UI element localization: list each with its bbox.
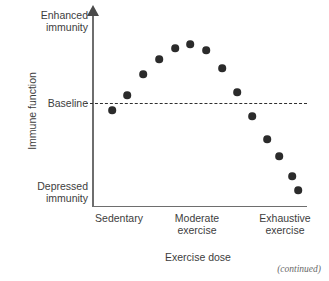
data-point: [294, 186, 302, 194]
data-point: [123, 91, 131, 99]
data-point: [171, 44, 179, 52]
x-tick-label-exhaustive-exercise: Exhaustive exercise: [248, 212, 322, 236]
data-point: [108, 106, 116, 114]
data-point: [139, 70, 147, 78]
data-point: [288, 172, 296, 180]
data-point: [186, 40, 194, 48]
y-tick-label-baseline: Baseline: [48, 97, 88, 109]
data-point: [248, 112, 256, 120]
data-point: [263, 135, 271, 143]
y-tick-label-enhanced-immunity: Enhanced immunity: [41, 9, 88, 33]
immune-function-exercise-dose-chart: Enhanced immunity Baseline Depressed imm…: [0, 0, 329, 281]
y-tick-label-depressed-immunity: Depressed immunity: [37, 180, 88, 204]
baseline-reference-line: [85, 103, 307, 104]
y-axis-arrow-icon: [87, 5, 99, 16]
x-tick-label-moderate-exercise: Moderate exercise: [162, 212, 232, 236]
y-axis-title: Immune function: [26, 31, 38, 191]
x-axis-title: Exercise dose: [103, 251, 293, 263]
data-point: [202, 46, 210, 54]
x-axis-line: [92, 206, 307, 208]
y-axis-line: [92, 14, 94, 207]
continued-note: (continued): [277, 264, 321, 274]
data-point: [275, 152, 283, 160]
data-point: [233, 88, 241, 96]
data-point: [218, 64, 226, 72]
data-point: [155, 55, 163, 63]
x-tick-label-sedentary: Sedentary: [84, 212, 154, 224]
